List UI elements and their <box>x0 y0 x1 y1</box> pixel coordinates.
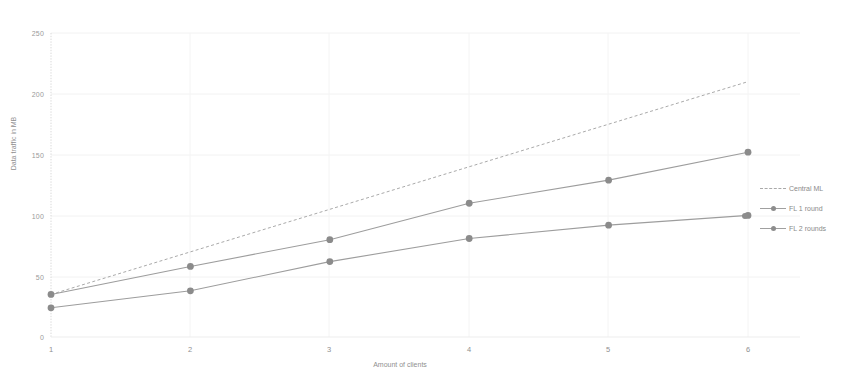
y-tick-50: 50 <box>36 274 44 281</box>
x-tick-1: 1 <box>49 345 53 354</box>
series-markers-fl-1-round <box>48 212 752 311</box>
legend-label-fl-1-round: FL 1 round <box>786 205 823 212</box>
y-axis-tick-labels: 250 200 150 100 50 0 <box>0 0 44 379</box>
series-line-fl-2-rounds <box>51 152 748 294</box>
x-tick-5: 5 <box>606 345 610 354</box>
chart-figure: 250 200 150 100 50 0 Data traffic in MB … <box>0 0 845 379</box>
y-tick-100: 100 <box>32 213 44 220</box>
series-endpoint-marker <box>742 213 748 219</box>
legend-item-fl-2-rounds[interactable]: FL 2 rounds <box>760 218 845 238</box>
legend-line-marker-icon <box>760 223 786 233</box>
legend-item-fl-1-round[interactable]: FL 1 round <box>760 198 845 218</box>
legend-item-central-ml[interactable]: Central ML <box>760 178 845 198</box>
x-tick-6: 6 <box>746 345 750 354</box>
x-tick-4: 4 <box>467 345 471 354</box>
series-line-fl-1-round <box>51 215 748 307</box>
x-tick-2: 2 <box>188 345 192 354</box>
series-line-central-ml <box>51 82 748 295</box>
legend-label-central-ml: Central ML <box>786 185 823 192</box>
y-tick-200: 200 <box>32 91 44 98</box>
vertical-gridlines <box>190 33 748 337</box>
legend-label-fl-2-rounds: FL 2 rounds <box>786 225 826 232</box>
chart-canvas <box>0 0 845 379</box>
y-tick-150: 150 <box>32 152 44 159</box>
legend-dashed-line-icon <box>760 183 786 193</box>
x-axis-title: Amount of clients <box>0 361 800 368</box>
x-axis-tick-labels: 1 2 3 4 5 6 <box>0 345 845 359</box>
y-tick-0: 0 <box>40 334 44 341</box>
y-tick-250: 250 <box>32 30 44 37</box>
chart-legend: Central ML FL 1 round FL 2 rounds <box>760 178 845 238</box>
y-axis-title: Data traffic in MB <box>10 89 17 199</box>
legend-line-marker-icon <box>760 203 786 213</box>
horizontal-gridlines <box>51 33 800 277</box>
series-markers-fl-2-rounds <box>48 149 752 298</box>
x-tick-3: 3 <box>327 345 331 354</box>
